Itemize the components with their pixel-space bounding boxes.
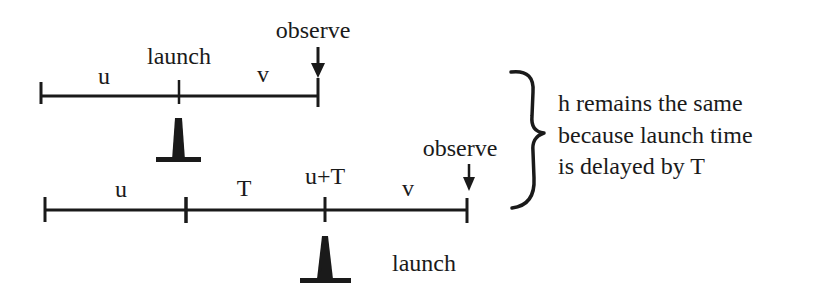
- label-observe-top: observe: [276, 17, 351, 43]
- arrow-down-icon: [311, 47, 325, 78]
- label-u-bottom: u: [115, 176, 127, 202]
- time-invariance-diagram: u launch v observe u T u+: [0, 0, 840, 296]
- label-observe-bottom: observe: [423, 135, 498, 161]
- label-u-top: u: [98, 63, 110, 89]
- arrow-down-icon: [463, 164, 475, 191]
- timeline-bottom: u T u+T v observe launch: [45, 135, 497, 283]
- explanation-line-3: is delayed by T: [558, 153, 705, 179]
- label-u-plus-t: u+T: [305, 163, 346, 189]
- label-launch-bottom: launch: [392, 250, 456, 276]
- explanation-line-2: because launch time: [558, 122, 753, 148]
- timeline-top: u launch v observe: [40, 17, 350, 162]
- label-v-top: v: [257, 61, 269, 87]
- label-v-bottom: v: [402, 175, 414, 201]
- label-t-bottom: T: [237, 175, 252, 201]
- launch-impulse-icon: [300, 236, 351, 283]
- curly-brace-icon: [511, 72, 544, 208]
- explanation-line-1: h remains the same: [558, 90, 743, 116]
- launch-impulse-icon: [156, 118, 201, 162]
- explanation-text: h remains the same because launch time i…: [558, 90, 753, 179]
- label-launch-top: launch: [147, 43, 211, 69]
